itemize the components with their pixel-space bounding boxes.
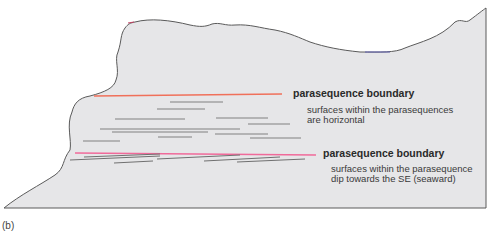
upper-boundary-label: parasequence boundary xyxy=(293,88,414,98)
lower-description-line2: dip towards the SE (seaward) xyxy=(331,174,456,184)
figure-label: (b) xyxy=(2,220,14,231)
upper-description-line2: are horizontal xyxy=(307,115,365,125)
cliff-diagram xyxy=(0,0,489,235)
lower-boundary-label: parasequence boundary xyxy=(323,148,444,158)
